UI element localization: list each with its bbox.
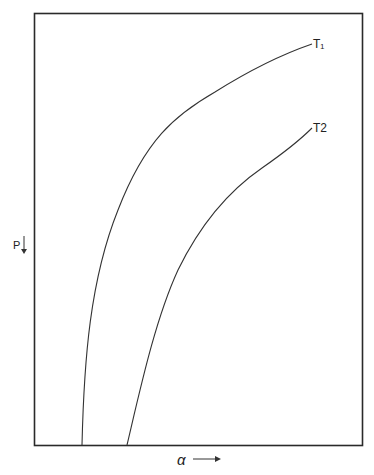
figure-canvas: T₁ T2 P α [0,0,374,475]
down-arrow-icon [21,236,27,254]
plot-frame [35,14,363,446]
curve-t1 [82,44,312,445]
curve-label-t2: T2 [313,121,327,135]
right-arrow-icon [193,456,221,462]
x-axis-label: α [177,451,186,468]
y-axis-label: P [13,239,20,251]
curve-label-t1: T₁ [313,37,324,51]
curve-t2 [127,128,312,445]
